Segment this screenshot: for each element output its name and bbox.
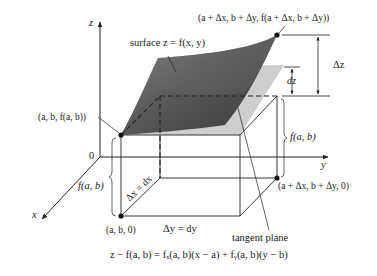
point-top <box>274 32 279 37</box>
point-ground <box>118 213 123 218</box>
x-axis-label: x <box>32 210 37 221</box>
fab-right-label: f(a, b) <box>290 132 316 143</box>
point-base <box>118 132 123 137</box>
surface-label: surface z = f(x, y) <box>130 38 205 49</box>
z-axis-label: z <box>89 18 93 29</box>
dz-label: dz <box>287 76 296 86</box>
point-far-ground <box>274 175 279 180</box>
tangent-plane-equation: z − f(a, b) = fₓ(a, b)(x − a) + fᵧ(a, b)… <box>110 250 288 261</box>
point-base-label: (a, b, f(a, b)) <box>38 113 86 123</box>
delta-y-label: Δy = dy <box>163 224 197 235</box>
point-top-label: (a + Δx, b + Δy, f(a + Δx, b + Δy)) <box>198 14 329 24</box>
y-axis-label: y <box>321 160 326 171</box>
delta-z-label: Δz <box>333 60 344 71</box>
origin-label: 0 <box>89 151 94 162</box>
tangent-plane-label: tangent plane <box>232 233 288 244</box>
fab-left-brace <box>109 138 116 216</box>
point-far-ground-label: (a + Δx, b + Δy, 0) <box>278 182 349 192</box>
fab-right-brace <box>281 99 287 177</box>
point-ground-label: (a, b, 0) <box>106 226 136 236</box>
fab-left-label: f(a, b) <box>78 181 104 192</box>
